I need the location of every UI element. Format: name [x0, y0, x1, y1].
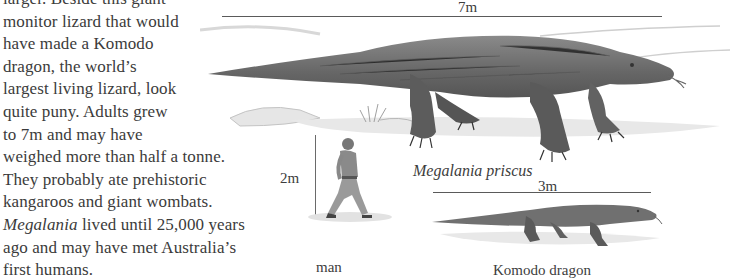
megalania-caption: Megalania priscus: [413, 162, 533, 180]
komodo-caption: Komodo dragon: [493, 262, 591, 279]
megalania-scale-line: [222, 16, 662, 17]
genus-name: Megalania: [3, 215, 78, 234]
text-line: larger. Beside this giant: [3, 0, 253, 11]
text-line: first humans.: [3, 259, 253, 279]
man-caption: man: [316, 259, 342, 276]
man-illustration: [300, 135, 400, 230]
man-scale-label: 2m: [280, 170, 299, 187]
text-line: kangaroos and giant wombats.: [3, 191, 253, 214]
text-line: ago and may have met Australia’s: [3, 237, 253, 260]
komodo-scale-line: [433, 192, 651, 193]
megalania-scale-label: 7m: [458, 0, 477, 16]
megalania-illustration: [200, 22, 736, 172]
text-line: Megalania lived until 25,000 years: [3, 214, 253, 237]
komodo-illustration: [430, 200, 670, 255]
text-line: They probably ate prehistoric: [3, 169, 253, 192]
